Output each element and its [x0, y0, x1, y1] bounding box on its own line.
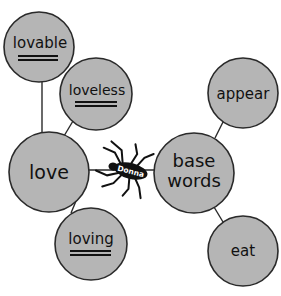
- node-eat: eat: [208, 216, 278, 286]
- node-loveless: loveless: [60, 58, 132, 130]
- label-lovable: lovable: [13, 34, 67, 52]
- label-appear: appear: [217, 85, 271, 103]
- node-base-words: base words: [154, 133, 234, 213]
- word-web-diagram: lovable loveless love loving base words …: [0, 0, 281, 296]
- node-love: love: [9, 132, 89, 212]
- node-loving: loving: [55, 208, 127, 280]
- node-appear: appear: [208, 58, 278, 128]
- node-lovable: lovable: [4, 12, 74, 82]
- label-base-words-line2: words: [167, 170, 221, 191]
- spider-icon: Donna: [92, 137, 155, 201]
- label-eat: eat: [231, 242, 255, 260]
- connector-base-words-eat: [214, 207, 223, 222]
- connector-loveless-love: [64, 121, 73, 136]
- label-love: love: [29, 161, 69, 183]
- label-loving: loving: [68, 230, 113, 248]
- label-base-words-line1: base: [173, 150, 216, 171]
- connector-appear-base-words: [215, 122, 223, 138]
- label-loveless: loveless: [69, 82, 125, 98]
